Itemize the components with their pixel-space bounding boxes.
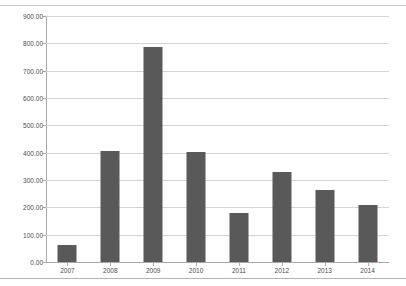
x-axis-label-2011: 2011 — [232, 267, 246, 274]
bar-2012[interactable] — [272, 172, 291, 262]
bar-2009[interactable] — [144, 47, 163, 262]
bar-2011[interactable] — [229, 213, 248, 262]
x-axis-tick-mark — [282, 263, 283, 266]
bar-chart-figure: 0.00100.00200.00300.00400.00500.00600.00… — [0, 0, 406, 286]
x-axis-tick-mark — [368, 263, 369, 266]
y-axis-tick-label: 900.00 — [3, 13, 43, 20]
x-axis-tick-mark — [153, 263, 154, 266]
y-axis-tick-label: 0.00 — [3, 259, 43, 266]
bar-slot — [346, 16, 389, 262]
bar-slot — [303, 16, 346, 262]
y-axis-labels: 0.00100.00200.00300.00400.00500.00600.00… — [0, 16, 43, 262]
y-axis-tick-label: 600.00 — [3, 95, 43, 102]
x-axis-label-2008: 2008 — [103, 267, 117, 274]
bar-slot — [175, 16, 218, 262]
bar-slot — [46, 16, 89, 262]
x-axis-tick-mark — [196, 263, 197, 266]
y-axis-tick-label: 500.00 — [3, 122, 43, 129]
bar-slot — [132, 16, 175, 262]
y-axis-tick-label: 300.00 — [3, 177, 43, 184]
x-axis-label-2010: 2010 — [189, 267, 203, 274]
x-axis-tick-mark — [325, 263, 326, 266]
x-axis-label-2007: 2007 — [60, 267, 74, 274]
x-axis-tick-mark — [67, 263, 68, 266]
bar-slot — [260, 16, 303, 262]
top-divider-rule — [0, 5, 406, 6]
x-axis-label-2014: 2014 — [360, 267, 374, 274]
bar-slot — [218, 16, 261, 262]
x-axis-tick-mark — [239, 263, 240, 266]
y-axis-tick-label: 200.00 — [3, 204, 43, 211]
bar-2010[interactable] — [187, 152, 206, 262]
gridline-0 — [46, 262, 389, 263]
plot-area — [46, 16, 389, 262]
x-axis-label-2012: 2012 — [275, 267, 289, 274]
bottom-divider-rule — [0, 278, 406, 279]
bars-layer — [46, 16, 389, 262]
bar-2008[interactable] — [101, 151, 120, 262]
bar-2014[interactable] — [358, 205, 377, 262]
y-axis-tick-label: 800.00 — [3, 40, 43, 47]
chart-title-cropped — [0, 0, 406, 4]
x-axis-tick-mark — [110, 263, 111, 266]
bar-2007[interactable] — [58, 245, 77, 262]
x-axis-label-2013: 2013 — [317, 267, 331, 274]
y-axis-tick-label: 400.00 — [3, 149, 43, 156]
bar-2013[interactable] — [315, 190, 334, 262]
x-axis-label-2009: 2009 — [146, 267, 160, 274]
y-axis-tick-label: 700.00 — [3, 67, 43, 74]
y-axis-tick-label: 100.00 — [3, 231, 43, 238]
bar-slot — [89, 16, 132, 262]
